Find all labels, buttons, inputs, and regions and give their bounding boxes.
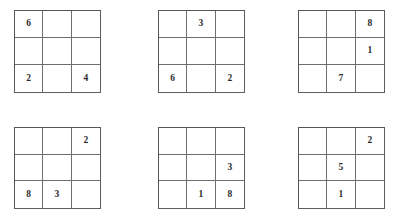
cell-digit: 2 <box>367 136 372 146</box>
grid-cell[interactable]: 1 <box>327 181 355 208</box>
grid-cell[interactable] <box>72 181 100 208</box>
cell-digit: 3 <box>199 19 204 29</box>
cell-digit: 2 <box>83 136 88 146</box>
cell-digit: 1 <box>367 46 372 56</box>
number-grid: 283 <box>14 127 101 209</box>
number-grid: 251 <box>298 127 385 209</box>
grid-cell[interactable] <box>72 155 100 182</box>
puzzle-grid-5: 318 <box>158 127 245 209</box>
cell-digit: 8 <box>367 19 372 29</box>
grid-cell[interactable] <box>187 128 215 155</box>
grid-cell[interactable]: 2 <box>216 65 244 92</box>
grid-cell[interactable] <box>327 38 355 65</box>
number-grid: 318 <box>158 127 245 209</box>
grid-cell[interactable] <box>159 11 187 38</box>
grid-cell[interactable] <box>159 181 187 208</box>
number-grid: 362 <box>158 10 245 93</box>
grid-cell[interactable]: 2 <box>15 65 43 92</box>
grid-cell[interactable] <box>187 155 215 182</box>
grid-cell[interactable] <box>216 128 244 155</box>
grid-cell[interactable] <box>299 65 327 92</box>
grid-cell[interactable] <box>216 11 244 38</box>
grid-cell[interactable]: 8 <box>15 181 43 208</box>
cell-digit: 2 <box>227 74 232 84</box>
number-grid: 624 <box>14 10 101 93</box>
grid-cell[interactable]: 2 <box>356 128 384 155</box>
grid-cell[interactable] <box>159 155 187 182</box>
cell-digit: 1 <box>339 190 344 200</box>
puzzle-grid-4: 283 <box>14 127 101 209</box>
grid-cell[interactable]: 8 <box>356 11 384 38</box>
cell-digit: 3 <box>227 163 232 173</box>
grid-cell[interactable] <box>43 65 71 92</box>
grid-cell[interactable] <box>15 38 43 65</box>
puzzle-grid-6: 251 <box>298 127 385 209</box>
grid-cell[interactable] <box>299 38 327 65</box>
grid-cell[interactable] <box>356 65 384 92</box>
number-grid: 817 <box>298 10 385 93</box>
grid-cell[interactable]: 8 <box>216 181 244 208</box>
grid-cell[interactable] <box>327 11 355 38</box>
grid-cell[interactable]: 3 <box>187 11 215 38</box>
cell-digit: 4 <box>83 74 88 84</box>
cell-digit: 1 <box>199 190 204 200</box>
grid-cell[interactable] <box>72 38 100 65</box>
grid-cell[interactable] <box>299 155 327 182</box>
puzzle-grid-3: 817 <box>298 10 385 93</box>
grid-cell[interactable]: 4 <box>72 65 100 92</box>
grid-cell[interactable] <box>187 38 215 65</box>
puzzle-sheet: 624362817283318251 <box>0 0 406 219</box>
cell-digit: 8 <box>26 190 31 200</box>
grid-cell[interactable] <box>216 38 244 65</box>
grid-cell[interactable]: 2 <box>72 128 100 155</box>
cell-digit: 6 <box>170 74 175 84</box>
cell-digit: 8 <box>227 190 232 200</box>
grid-cell[interactable]: 1 <box>187 181 215 208</box>
grid-cell[interactable] <box>187 65 215 92</box>
grid-cell[interactable]: 6 <box>15 11 43 38</box>
grid-cell[interactable] <box>299 11 327 38</box>
grid-cell[interactable] <box>299 181 327 208</box>
cell-digit: 7 <box>339 74 344 84</box>
grid-cell[interactable] <box>159 128 187 155</box>
grid-cell[interactable] <box>356 181 384 208</box>
cell-digit: 5 <box>339 163 344 173</box>
grid-cell[interactable] <box>159 38 187 65</box>
cell-digit: 6 <box>26 19 31 29</box>
grid-cell[interactable]: 3 <box>43 181 71 208</box>
grid-cell[interactable] <box>356 155 384 182</box>
grid-cell[interactable] <box>15 155 43 182</box>
grid-cell[interactable] <box>43 128 71 155</box>
grid-cell[interactable] <box>327 128 355 155</box>
grid-cell[interactable] <box>72 11 100 38</box>
grid-cell[interactable] <box>43 11 71 38</box>
grid-cell[interactable]: 7 <box>327 65 355 92</box>
cell-digit: 3 <box>55 190 60 200</box>
grid-cell[interactable]: 5 <box>327 155 355 182</box>
grid-cell[interactable]: 6 <box>159 65 187 92</box>
grid-cell[interactable] <box>43 155 71 182</box>
grid-cell[interactable]: 3 <box>216 155 244 182</box>
cell-digit: 2 <box>26 74 31 84</box>
puzzle-grid-1: 624 <box>14 10 101 93</box>
puzzle-grid-2: 362 <box>158 10 245 93</box>
grid-cell[interactable] <box>43 38 71 65</box>
grid-cell[interactable] <box>299 128 327 155</box>
grid-cell[interactable]: 1 <box>356 38 384 65</box>
grid-cell[interactable] <box>15 128 43 155</box>
